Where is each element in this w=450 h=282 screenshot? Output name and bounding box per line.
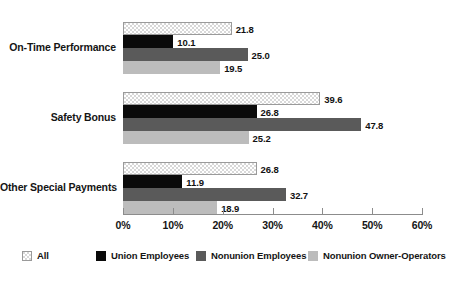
bar-nonunion-employees — [123, 118, 361, 131]
legend-swatch-nonunion-employees-icon — [196, 251, 206, 261]
bar-value-label: 25.0 — [252, 49, 270, 60]
bar-row: 32.7 — [123, 188, 422, 201]
x-axis-tick — [422, 208, 423, 214]
bar-value-label: 19.5 — [224, 62, 242, 73]
bar-row: 25.0 — [123, 48, 422, 61]
bar-union-employees — [123, 175, 182, 188]
legend-label: All — [37, 250, 49, 261]
category-label-other-special-payments: Other Special Payments — [0, 181, 116, 193]
bar-value-label: 10.1 — [177, 36, 195, 47]
legend-swatch-nonunion-owner-operators-icon — [308, 251, 318, 261]
bar-row: 19.5 — [123, 61, 422, 74]
bar-row: 26.8 — [123, 162, 422, 175]
bar-nonunion-owner-operators — [123, 201, 217, 214]
bar-all — [123, 92, 320, 105]
bar-row: 11.9 — [123, 175, 422, 188]
bar-row: 39.6 — [123, 92, 422, 105]
x-axis-tick — [123, 208, 124, 214]
bar-row: 21.8 — [123, 22, 422, 35]
bar-value-label: 26.8 — [261, 106, 279, 117]
bar-all — [123, 162, 257, 175]
legend-label: Nonunion Employees — [211, 250, 306, 261]
x-axis-line — [123, 214, 423, 215]
plot-area: 21.810.125.019.539.626.847.825.226.811.9… — [123, 10, 422, 208]
chart-legend: AllUnion EmployeesNonunion EmployeesNonu… — [0, 250, 442, 266]
x-axis-tick — [322, 208, 323, 214]
bar-value-label: 11.9 — [186, 176, 204, 187]
x-axis-tick — [173, 208, 174, 214]
bar-union-employees — [123, 35, 173, 48]
bar-value-label: 25.2 — [253, 132, 271, 143]
bar-value-label: 47.8 — [365, 119, 383, 130]
legend-label: Union Employees — [111, 250, 189, 261]
legend-item-nonunion-owner-operators[interactable]: Nonunion Owner-Operators — [308, 250, 446, 261]
legend-item-all[interactable]: All — [22, 250, 49, 261]
legend-item-union-employees[interactable]: Union Employees — [96, 250, 189, 261]
bar-row: 25.2 — [123, 131, 422, 144]
bar-value-label: 26.8 — [261, 163, 279, 174]
x-axis-tick — [273, 208, 274, 214]
legend-swatch-all-icon — [22, 251, 32, 261]
category-label-on-time-performance: On-Time Performance — [0, 41, 116, 53]
bar-value-label: 39.6 — [324, 93, 342, 104]
legend-item-nonunion-employees[interactable]: Nonunion Employees — [196, 250, 306, 261]
bar-row: 26.8 — [123, 105, 422, 118]
bar-nonunion-employees — [123, 48, 248, 61]
bar-nonunion-owner-operators — [123, 131, 249, 144]
bar-nonunion-employees — [123, 188, 286, 201]
category-label-safety-bonus: Safety Bonus — [0, 111, 116, 123]
legend-swatch-union-employees-icon — [96, 251, 106, 261]
bar-value-label: 18.9 — [221, 202, 239, 213]
bar-union-employees — [123, 105, 257, 118]
bar-row: 10.1 — [123, 35, 422, 48]
bar-row: 47.8 — [123, 118, 422, 131]
legend-label: Nonunion Owner-Operators — [323, 250, 446, 261]
bar-value-label: 32.7 — [290, 189, 308, 200]
x-axis-tick-label: 60% — [392, 219, 450, 231]
x-axis-tick — [223, 208, 224, 214]
x-axis-tick — [372, 208, 373, 214]
bar-all — [123, 22, 232, 35]
bar-nonunion-owner-operators — [123, 61, 220, 74]
bar-value-label: 21.8 — [236, 23, 254, 34]
